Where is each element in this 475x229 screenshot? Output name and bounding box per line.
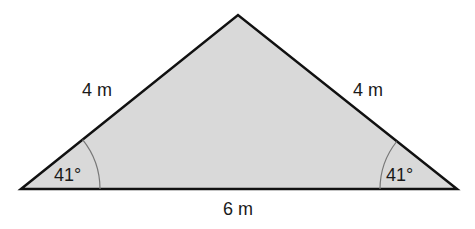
right-angle-label: 41°: [386, 166, 413, 184]
base-label: 6 m: [223, 200, 253, 218]
right-side-label: 4 m: [353, 81, 383, 99]
triangle-diagram: [0, 0, 475, 229]
left-side-label: 4 m: [82, 81, 112, 99]
left-angle-label: 41°: [54, 166, 81, 184]
triangle: [21, 15, 457, 189]
